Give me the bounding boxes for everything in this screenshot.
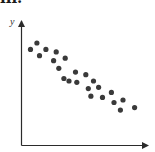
data-point bbox=[28, 47, 33, 52]
data-point bbox=[83, 72, 88, 77]
data-point bbox=[43, 47, 48, 52]
data-point bbox=[91, 78, 96, 83]
data-point bbox=[96, 85, 101, 90]
data-point bbox=[37, 53, 42, 58]
data-points bbox=[28, 40, 137, 112]
data-point bbox=[86, 86, 91, 91]
scatter-plot bbox=[0, 0, 155, 152]
data-point bbox=[56, 66, 61, 71]
data-point bbox=[74, 80, 79, 85]
data-point bbox=[51, 58, 56, 63]
data-point bbox=[61, 76, 66, 81]
data-point bbox=[100, 95, 105, 100]
data-point bbox=[111, 100, 116, 105]
data-point bbox=[54, 49, 59, 54]
data-point bbox=[34, 40, 39, 45]
data-point bbox=[88, 94, 93, 99]
data-point bbox=[132, 105, 137, 110]
data-point bbox=[120, 97, 125, 102]
data-point bbox=[109, 90, 114, 95]
data-point bbox=[63, 56, 68, 61]
data-point bbox=[66, 78, 71, 83]
data-point bbox=[118, 108, 123, 113]
data-point bbox=[73, 70, 78, 75]
